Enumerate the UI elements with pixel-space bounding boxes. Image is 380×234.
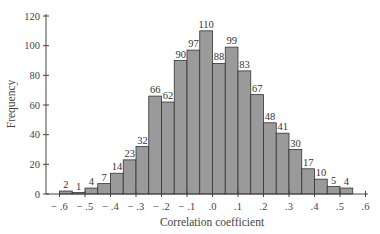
histogram-bar bbox=[315, 179, 328, 194]
bar-value-label: 90 bbox=[175, 49, 186, 60]
histogram-bar bbox=[225, 47, 238, 194]
bar-value-label: 67 bbox=[252, 83, 263, 94]
histogram-bar bbox=[238, 71, 251, 194]
bar-value-label: 99 bbox=[226, 35, 237, 46]
histogram-bar bbox=[327, 187, 340, 194]
bar-value-label: 4 bbox=[89, 176, 95, 187]
y-tick-label: 20 bbox=[30, 159, 41, 170]
y-tick-label: 0 bbox=[35, 189, 40, 200]
bar-value-label: 83 bbox=[239, 59, 250, 70]
x-axis-title: Correlation coefficient bbox=[160, 216, 265, 228]
histogram-bars bbox=[60, 31, 353, 194]
histogram-bar bbox=[264, 123, 277, 194]
bar-value-label: 30 bbox=[290, 138, 301, 149]
histogram-bar bbox=[136, 147, 149, 194]
histogram-bar bbox=[111, 173, 124, 194]
x-tick-label: .1 bbox=[234, 201, 242, 212]
y-tick-label: 60 bbox=[30, 100, 41, 111]
bar-value-label: 88 bbox=[214, 51, 225, 62]
bar-value-label: 2 bbox=[63, 179, 68, 190]
bar-value-label: 10 bbox=[316, 167, 327, 178]
x-tick-label: − .4 bbox=[102, 201, 119, 212]
histogram-bar bbox=[123, 160, 136, 194]
x-tick-label: .6 bbox=[362, 201, 370, 212]
histogram-bar bbox=[187, 50, 200, 194]
x-tick-label: − .1 bbox=[179, 201, 195, 212]
x-tick-label: − .6 bbox=[51, 201, 67, 212]
bar-value-label: 48 bbox=[265, 111, 276, 122]
x-tick-label: .2 bbox=[260, 201, 268, 212]
histogram-bar bbox=[213, 63, 226, 194]
y-tick-label: 120 bbox=[24, 11, 40, 22]
bar-value-label: 14 bbox=[112, 161, 123, 172]
x-tick-label: .4 bbox=[311, 201, 320, 212]
histogram-chart: 2147142332666290971108899836748413017105… bbox=[0, 0, 380, 234]
histogram-bar bbox=[149, 96, 162, 194]
histogram-bar bbox=[289, 150, 302, 195]
histogram-bar bbox=[162, 102, 175, 194]
bar-value-label: 4 bbox=[344, 176, 350, 187]
y-tick-label: 100 bbox=[24, 40, 40, 51]
histogram-bar bbox=[251, 95, 264, 194]
y-tick-label: 80 bbox=[30, 70, 41, 81]
bar-value-label: 7 bbox=[102, 172, 107, 183]
bar-value-label: 23 bbox=[124, 148, 135, 159]
x-tick-label: − .3 bbox=[128, 201, 144, 212]
y-axis-ticks: 020406080100120 bbox=[24, 11, 49, 200]
x-tick-label: .5 bbox=[336, 201, 344, 212]
histogram-bar bbox=[302, 169, 315, 194]
x-tick-label: − .2 bbox=[153, 201, 169, 212]
histogram-bar bbox=[85, 188, 98, 194]
bar-value-label: 66 bbox=[150, 84, 161, 95]
histogram-bar bbox=[200, 31, 213, 194]
bar-value-label: 110 bbox=[198, 19, 213, 30]
x-tick-label: − .5 bbox=[77, 201, 93, 212]
bar-value-label: 5 bbox=[331, 175, 336, 186]
bar-value-label: 17 bbox=[303, 157, 314, 168]
bar-value-label: 97 bbox=[188, 38, 199, 49]
bar-value-label: 1 bbox=[76, 181, 81, 192]
bar-value-label: 41 bbox=[277, 121, 288, 132]
bar-value-label: 32 bbox=[137, 135, 148, 146]
x-tick-label: .3 bbox=[285, 201, 293, 212]
histogram-bar bbox=[98, 184, 111, 194]
histogram-bar bbox=[276, 133, 289, 194]
y-tick-label: 40 bbox=[30, 129, 41, 140]
histogram-bar bbox=[340, 188, 353, 194]
histogram-bar bbox=[174, 61, 187, 195]
bar-value-label: 62 bbox=[163, 90, 174, 101]
x-tick-label: .0 bbox=[209, 201, 217, 212]
y-axis-title: Frequency bbox=[5, 79, 18, 128]
